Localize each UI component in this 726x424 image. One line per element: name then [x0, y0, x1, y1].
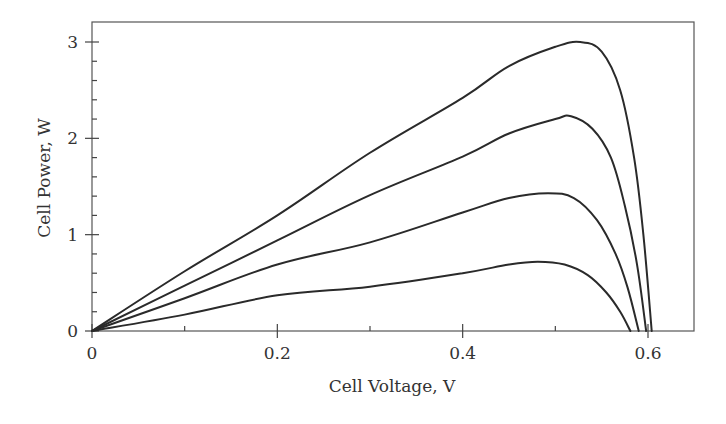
power-curve-2: [92, 115, 646, 331]
x-axis: 00.20.40.6: [87, 324, 662, 363]
y-tick-label: 1: [67, 225, 78, 245]
power-curve-1: [92, 42, 652, 331]
x-tick-label: 0.6: [634, 343, 661, 363]
y-axis: 0123: [67, 32, 99, 341]
x-tick-label: 0.2: [264, 343, 291, 363]
x-tick-label: 0: [87, 343, 98, 363]
x-axis-label: Cell Voltage, V: [329, 376, 456, 396]
y-tick-label: 2: [67, 128, 78, 148]
y-axis-label: Cell Power, W: [34, 118, 54, 238]
data-series: [92, 42, 652, 331]
y-tick-label: 0: [67, 321, 78, 341]
x-tick-label: 0.4: [449, 343, 476, 363]
y-tick-label: 3: [67, 32, 78, 52]
power-curve-4: [92, 262, 630, 331]
power-voltage-chart: 0123 00.20.40.6 Cell Voltage, V Cell Pow…: [0, 0, 726, 424]
